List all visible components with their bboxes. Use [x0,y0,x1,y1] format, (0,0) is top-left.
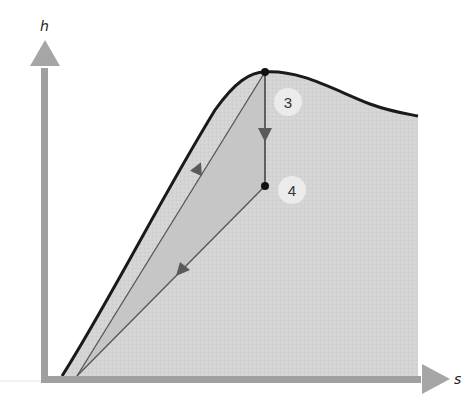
x-axis-label: s [454,371,461,387]
y-axis-arrow-icon [30,40,60,66]
state-4-label: 4 [288,182,296,199]
h-s-diagram: 3 4 h s [0,0,476,402]
state-point-3 [261,68,269,76]
state-3-label: 3 [284,94,292,111]
x-axis-arrow-icon [422,364,450,394]
y-axis [41,68,48,382]
y-axis-label: h [40,18,49,34]
state-point-4 [261,182,269,190]
x-axis [41,376,421,383]
